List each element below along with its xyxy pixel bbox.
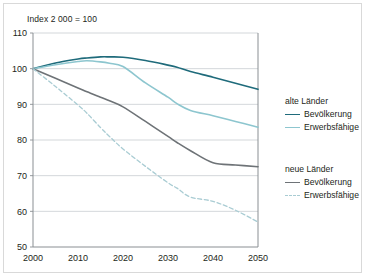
- legend-item-neue-bevoelkerung[interactable]: Bevölkerung: [285, 177, 352, 187]
- legend-item-alte-bevoelkerung[interactable]: Bevölkerung: [285, 109, 352, 119]
- line-chart-svg: 5060708090100110 20002010202020302040205…: [0, 0, 369, 280]
- legend-label-neue-bevoelkerung: Bevölkerung: [304, 177, 352, 187]
- y-axis-tick-labels: 5060708090100110: [12, 28, 27, 252]
- chart-plot-area: 5060708090100110 20002010202020302040205…: [0, 0, 369, 280]
- legend-swatch-alte-erwerbsfaehige: [285, 127, 300, 128]
- legend-group-heading-neue-laender: neue Länder: [285, 164, 333, 174]
- y-tick-label: 90: [17, 100, 27, 110]
- data-series: [33, 57, 258, 222]
- legend-swatch-neue-bevoelkerung: [285, 182, 300, 183]
- y-tick-label: 60: [17, 207, 27, 217]
- x-axis-tick-labels: 200020102020203020402050: [23, 253, 268, 263]
- legend-label-alte-erwerbsfaehige: Erwerbsfähige: [304, 122, 359, 132]
- y-tick-label: 70: [17, 171, 27, 181]
- y-tick-label: 50: [17, 242, 27, 252]
- legend-swatch-alte-bevoelkerung: [285, 114, 300, 115]
- series-line: [33, 57, 258, 90]
- x-tick-label: 2030: [158, 253, 178, 263]
- y-tick-label: 80: [17, 135, 27, 145]
- series-line: [33, 69, 258, 222]
- legend-item-alte-erwerbsfaehige[interactable]: Erwerbsfähige: [285, 122, 359, 132]
- x-tick-label: 2010: [68, 253, 88, 263]
- legend-label-alte-bevoelkerung: Bevölkerung: [304, 109, 352, 119]
- x-tick-label: 2040: [203, 253, 223, 263]
- x-tick-label: 2050: [248, 253, 268, 263]
- legend-swatch-neue-erwerbsfaehige: [285, 195, 300, 196]
- legend-item-neue-erwerbsfaehige[interactable]: Erwerbsfähige: [285, 190, 359, 200]
- legend-group-heading-alte-laender: alte Länder: [285, 96, 328, 106]
- y-tick-label: 110: [13, 28, 27, 38]
- series-line: [33, 61, 258, 127]
- x-tick-label: 2020: [113, 253, 133, 263]
- y-tick-label: 100: [12, 64, 27, 74]
- x-tick-label: 2000: [23, 253, 43, 263]
- legend-label-neue-erwerbsfaehige: Erwerbsfähige: [304, 190, 359, 200]
